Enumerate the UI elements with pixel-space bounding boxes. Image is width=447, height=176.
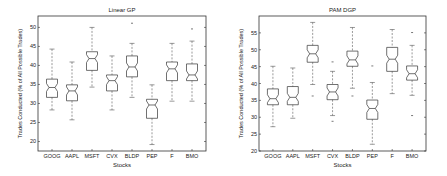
box-bmo <box>187 29 198 151</box>
figure: 20253035404550Linear GPStocksTrades Cond… <box>0 0 447 176</box>
y-tick-label: 35 <box>251 97 257 103</box>
box-cvx <box>327 62 338 151</box>
y-tick-label: 55 <box>251 30 257 36</box>
y-tick-label: 25 <box>30 119 36 125</box>
chart-title: PAM DGP <box>329 7 356 13</box>
box-aapl <box>287 68 298 151</box>
y-tick-label: 30 <box>251 114 257 120</box>
notched-box <box>407 66 418 80</box>
chart-panel-1: 2025303540455055PAM DGPStocksTrades Cond… <box>238 7 426 168</box>
axes-frame <box>259 16 426 151</box>
y-tick-label: 50 <box>251 47 257 53</box>
x-tick-label: GOOG <box>43 153 60 159</box>
notched-box <box>67 85 78 101</box>
notched-box <box>187 64 198 81</box>
box-bldp <box>347 27 358 151</box>
x-tick-label: F <box>170 153 174 159</box>
y-tick-label: 35 <box>30 81 36 87</box>
x-tick-label: MSFT <box>305 153 321 159</box>
y-tick-label: 50 <box>30 24 36 30</box>
y-axis-label: Trades Conducted (% of All Possible Trad… <box>17 29 23 138</box>
notched-box <box>287 87 298 105</box>
x-tick-label: F <box>391 153 395 159</box>
x-tick-label: AAPL <box>65 153 79 159</box>
x-tick-label: BLDP <box>125 153 140 159</box>
x-tick-label: CVX <box>106 153 118 159</box>
y-tick-label: 40 <box>251 81 257 87</box>
x-tick-label: PEP <box>367 153 378 159</box>
x-tick-label: BLDP <box>345 153 360 159</box>
box-f <box>167 43 178 151</box>
box-msft <box>87 27 98 151</box>
notched-box <box>367 100 378 119</box>
x-tick-label: AAPL <box>286 153 300 159</box>
y-tick-label: 45 <box>30 43 36 49</box>
y-axis-label: Trades Conducted (% of All Possible Trad… <box>238 29 244 138</box>
notched-box <box>347 51 358 66</box>
chart-title: Linear GP <box>108 7 135 13</box>
x-tick-label: MSFT <box>85 153 101 159</box>
box-bmo <box>407 33 418 151</box>
box-aapl <box>67 62 78 151</box>
y-tick-label: 30 <box>30 100 36 106</box>
y-tick-label: 20 <box>251 148 257 154</box>
box-goog <box>267 66 278 151</box>
x-tick-label: BMO <box>406 153 419 159</box>
box-cvx <box>107 56 118 151</box>
boxplot-figure: 20253035404550Linear GPStocksTrades Cond… <box>0 0 447 176</box>
chart-panel-0: 20253035404550Linear GPStocksTrades Cond… <box>17 7 206 168</box>
notched-box <box>127 56 138 77</box>
x-axis-label: Stocks <box>113 162 131 168</box>
notched-box <box>167 62 178 81</box>
box-bldp <box>127 23 138 151</box>
notched-box <box>87 52 98 71</box>
box-pep <box>367 66 378 151</box>
x-tick-label: BMO <box>186 153 199 159</box>
box-pep <box>147 85 158 151</box>
y-tick-label: 45 <box>251 64 257 70</box>
x-tick-label: GOOG <box>264 153 281 159</box>
y-tick-label: 40 <box>30 62 36 68</box>
y-tick-label: 25 <box>251 131 257 137</box>
axes-frame <box>38 16 206 151</box>
box-f <box>387 30 398 152</box>
box-msft <box>307 22 318 151</box>
notched-box <box>147 99 158 118</box>
x-tick-label: CVX <box>327 153 339 159</box>
notched-box <box>47 79 58 97</box>
y-tick-label: 20 <box>30 138 36 144</box>
notched-box <box>267 89 278 105</box>
x-tick-label: PEP <box>146 153 157 159</box>
notched-box <box>107 75 118 91</box>
x-axis-label: Stocks <box>333 162 351 168</box>
box-goog <box>47 49 58 151</box>
